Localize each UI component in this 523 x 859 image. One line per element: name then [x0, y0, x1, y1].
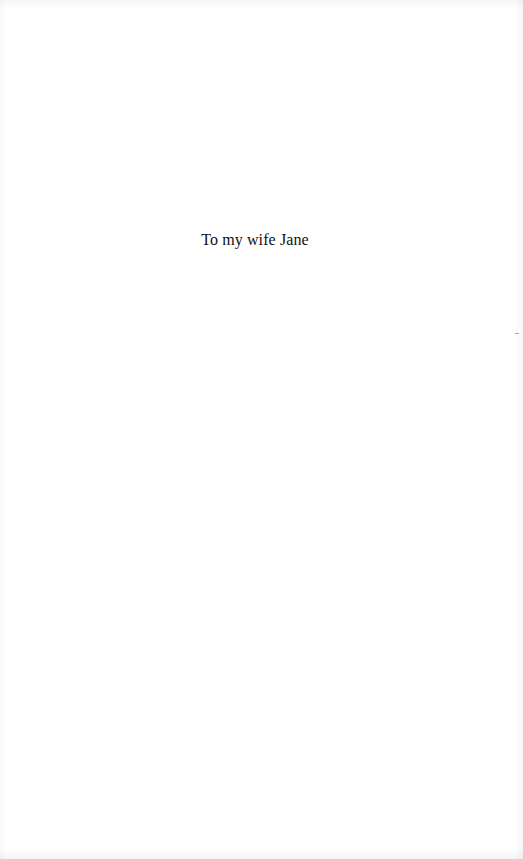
dedication-text: To my wife Jane [0, 230, 510, 250]
scan-artifact-mark [515, 333, 519, 334]
book-page: To my wife Jane [0, 0, 523, 859]
